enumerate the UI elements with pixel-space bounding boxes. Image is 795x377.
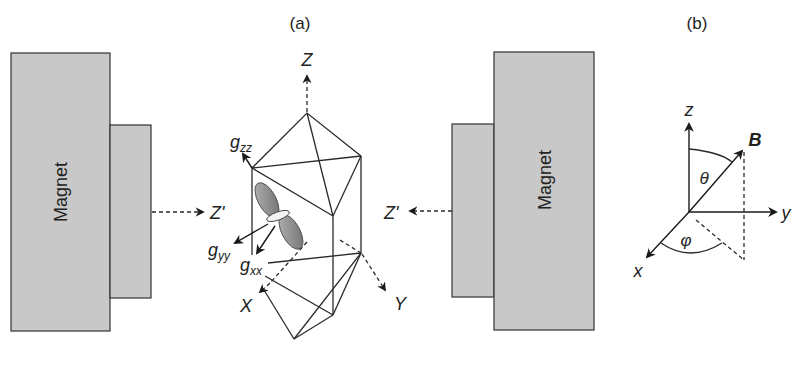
y-axis-label: y <box>780 203 792 223</box>
diagram-canvas: (a) Magnet Z' Z Y X <box>0 0 795 377</box>
crystal-x-label: X <box>239 296 253 316</box>
right-magnet-pole <box>452 124 494 297</box>
diagram-figure: (a) Magnet Z' Z Y X <box>0 0 795 377</box>
b-field-label: B <box>749 130 762 150</box>
b-field-vector <box>689 151 742 212</box>
left-magnet: Magnet <box>11 53 151 331</box>
x-axis-label: x <box>633 261 644 281</box>
gxx-label: gxx <box>240 255 263 278</box>
gzz-arrow <box>243 154 252 168</box>
right-field-axis-label: Z' <box>383 203 399 223</box>
left-magnet-pole <box>110 125 151 298</box>
theta-label: θ <box>699 169 709 188</box>
panel-a-label: (a) <box>290 14 311 33</box>
left-field-axis-label: Z' <box>209 203 225 223</box>
right-magnet-label: Magnet <box>535 150 555 210</box>
coordinate-system: z y x B θ φ <box>633 100 792 281</box>
d-orbital-icon <box>250 179 308 253</box>
theta-arc <box>689 149 732 162</box>
gxx-arrow <box>257 226 275 253</box>
crystal-y-label: Y <box>394 294 408 314</box>
gyy-label: gyy <box>208 240 231 263</box>
left-magnet-label: Magnet <box>51 162 71 222</box>
right-magnet: Magnet <box>452 52 594 330</box>
panel-b-label: (b) <box>687 14 708 33</box>
gzz-label: gzz <box>230 132 252 155</box>
crystal <box>252 113 361 339</box>
phi-label: φ <box>680 231 691 250</box>
crystal-y-axis <box>362 254 385 290</box>
b-xy-projection <box>696 220 744 260</box>
crystal-z-label: Z <box>301 50 314 70</box>
z-axis-label: z <box>684 100 694 120</box>
